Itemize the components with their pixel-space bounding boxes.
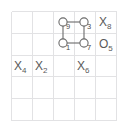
cell-label-x8: X8: [99, 16, 111, 31]
node-label-3: 3: [87, 23, 91, 31]
cell-label-x2-subscript: 2: [43, 66, 47, 75]
cell-label-o5-letter: O: [99, 37, 108, 51]
cell-label-x6: X6: [77, 60, 89, 75]
grid-diagram-canvas: 9 3 1 7 X8 O5 X4 X2 X6: [0, 0, 127, 132]
cell-label-o5: O5: [99, 38, 113, 53]
cell-label-o5-subscript: 5: [108, 44, 112, 53]
node-label-1: 1: [66, 44, 70, 52]
cell-label-x4-subscript: 4: [22, 66, 26, 75]
node-label-7: 7: [87, 44, 91, 52]
cell-label-x6-letter: X: [77, 59, 85, 73]
cell-label-x2-letter: X: [35, 59, 43, 73]
cell-label-x8-letter: X: [99, 15, 107, 29]
cell-label-x4-letter: X: [14, 59, 22, 73]
cell-label-x6-subscript: 6: [85, 66, 89, 75]
cell-label-x8-subscript: 8: [107, 22, 111, 31]
cell-label-x4: X4: [14, 60, 26, 75]
node-label-9: 9: [66, 23, 70, 31]
cell-label-x2: X2: [35, 60, 47, 75]
